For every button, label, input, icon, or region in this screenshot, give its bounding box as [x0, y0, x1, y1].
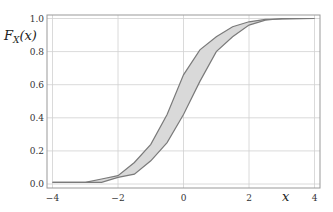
x-tick-label: 2	[246, 193, 252, 203]
cdf-bounds-chart: −4−2024 0.00.20.40.60.81.0 FX(x) x	[0, 0, 333, 212]
x-tick-labels: −4−2024	[46, 193, 318, 203]
x-tick-label: 4	[312, 193, 318, 203]
y-tick-label: 0.0	[30, 179, 45, 189]
y-tick-label: 0.8	[30, 47, 45, 57]
x-tick-label: 0	[181, 193, 187, 203]
y-tick-label: 0.2	[30, 146, 44, 156]
y-axis-label: FX(x)	[3, 28, 37, 45]
x-tick-label: −4	[46, 193, 60, 203]
y-tick-label: 1.0	[30, 14, 45, 24]
y-tick-label: 0.6	[30, 80, 45, 90]
x-axis-label: x	[282, 189, 290, 204]
x-tick-label: −2	[111, 193, 124, 203]
y-tick-label: 0.4	[30, 113, 45, 123]
